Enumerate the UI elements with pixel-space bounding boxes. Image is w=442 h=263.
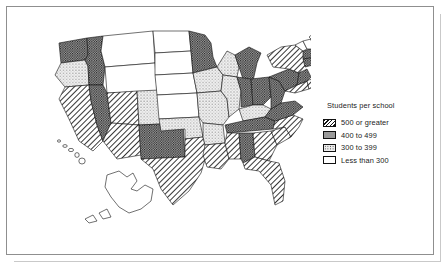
- state-OH: [251, 77, 271, 105]
- legend-item-less-than-300: Less than 300: [323, 155, 427, 166]
- state-SD: [155, 51, 193, 75]
- legend-swatch-dark-stipple-icon: [323, 131, 336, 139]
- legend-item-400-to-499: 400 to 499: [323, 130, 427, 141]
- legend-swatch-light-stipple-icon: [323, 144, 336, 152]
- state-WA: [59, 38, 88, 63]
- state-KS: [157, 93, 199, 119]
- state-MN: [189, 31, 217, 73]
- legend-swatch-diagonal-hatch-icon: [323, 119, 336, 127]
- legend-label-400-to-499: 400 to 499: [341, 131, 377, 140]
- legend-label-300-to-399: 300 to 399: [341, 143, 377, 152]
- state-WY: [105, 63, 157, 93]
- legend-label-500-or-greater: 500 or greater: [341, 118, 389, 127]
- state-HI: [57, 140, 85, 164]
- state-AZ: [103, 123, 141, 159]
- state-OR: [55, 60, 89, 87]
- map-legend: Students per school 500 or greater 400 t…: [323, 101, 427, 167]
- state-ND: [153, 31, 191, 53]
- state-AK: [85, 171, 153, 223]
- legend-title: Students per school: [327, 101, 427, 110]
- state-FL: [243, 157, 285, 205]
- legend-label-less-than-300: Less than 300: [341, 156, 389, 165]
- legend-item-300-to-399: 300 to 399: [323, 142, 427, 153]
- state-UT: [107, 91, 139, 125]
- legend-item-500-or-greater: 500 or greater: [323, 117, 427, 128]
- state-NE: [155, 73, 197, 95]
- legend-swatch-white-icon: [323, 156, 336, 164]
- figure-frame: Students per school 500 or greater 400 t…: [6, 6, 434, 255]
- state-MO: [197, 91, 229, 125]
- state-MT: [101, 31, 155, 67]
- state-AR: [203, 123, 225, 145]
- us-choropleth-map: [41, 29, 311, 229]
- map-svg: [41, 29, 311, 229]
- state-LA: [203, 143, 229, 169]
